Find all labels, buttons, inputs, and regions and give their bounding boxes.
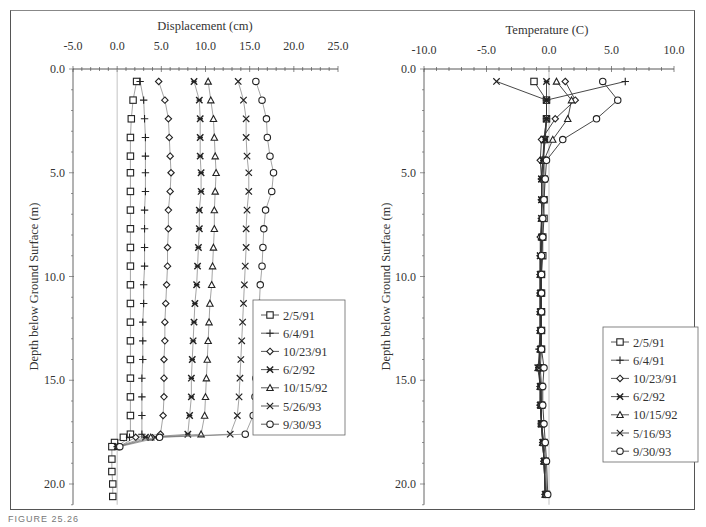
y-tick-label: 20.0 — [395, 477, 416, 491]
square-marker-icon — [127, 375, 133, 381]
x-tick-label: 25.0 — [328, 39, 349, 53]
legend-label: 5/16/93 — [633, 427, 671, 441]
diamond-marker-icon — [164, 263, 170, 269]
triangle-marker-icon — [212, 188, 218, 194]
y-tick-label: 15.0 — [44, 373, 65, 387]
square-marker-icon — [127, 356, 133, 362]
square-marker-icon — [130, 97, 136, 103]
square-marker-icon — [120, 434, 126, 440]
x-tick-label: 0.0 — [542, 43, 557, 57]
diamond-marker-icon — [163, 282, 169, 288]
series-5-26-93 — [115, 78, 252, 450]
y-tick-label: 20.0 — [44, 477, 65, 491]
x-tick-label: 10.0 — [664, 43, 685, 57]
triangle-marker-icon — [211, 207, 217, 213]
legend-label: 2/5/91 — [283, 309, 315, 323]
plus-marker-icon — [140, 281, 147, 288]
plus-marker-icon — [139, 318, 146, 325]
diamond-marker-icon — [562, 78, 568, 84]
circle-marker-icon — [593, 116, 599, 122]
x-tick-label: 5.0 — [154, 39, 169, 53]
y-tick-label: 10.0 — [395, 270, 416, 284]
circle-marker-icon — [540, 402, 546, 408]
diamond-marker-icon — [162, 319, 168, 325]
x-tick-label: 0.0 — [110, 39, 125, 53]
diamond-marker-icon — [162, 97, 168, 103]
triangle-marker-icon — [205, 78, 211, 84]
circle-marker-icon — [270, 170, 276, 176]
circle-marker-icon — [269, 188, 275, 194]
circle-marker-icon — [253, 78, 259, 84]
x-tick-label: 20.0 — [283, 39, 304, 53]
plus-marker-icon — [622, 78, 629, 85]
triangle-marker-icon — [208, 282, 214, 288]
plus-marker-icon — [138, 412, 145, 419]
asterisk-marker-icon — [191, 78, 197, 84]
y-axis-title: Depth below Ground Surface (m) — [27, 202, 41, 370]
square-marker-icon — [127, 282, 133, 288]
triangle-marker-icon — [201, 412, 207, 418]
circle-marker-icon — [242, 431, 248, 437]
legend-label: 2/5/91 — [633, 336, 665, 350]
square-marker-icon — [127, 394, 133, 400]
diamond-marker-icon — [161, 375, 167, 381]
circle-marker-icon — [262, 207, 268, 213]
legend-label: 6/2/92 — [283, 363, 315, 377]
circle-marker-icon — [545, 491, 551, 497]
legend: 2/5/916/4/9110/23/916/2/9210/15/925/16/9… — [603, 327, 698, 462]
y-tick-label: 10.0 — [44, 270, 65, 284]
plus-marker-icon — [142, 134, 149, 141]
plus-marker-icon — [140, 300, 147, 307]
plus-marker-icon — [138, 393, 145, 400]
triangle-marker-icon — [203, 375, 209, 381]
square-marker-icon — [127, 300, 133, 306]
circle-marker-icon — [538, 346, 544, 352]
square-marker-icon — [267, 312, 273, 318]
diamond-marker-icon — [161, 394, 167, 400]
cross-marker-icon — [240, 97, 246, 103]
triangle-marker-icon — [207, 300, 213, 306]
circle-marker-icon — [259, 97, 265, 103]
triangle-marker-icon — [565, 116, 571, 122]
legend-label: 6/4/91 — [283, 327, 315, 341]
circle-marker-icon — [600, 78, 606, 84]
legend: 2/5/916/4/9110/23/916/2/9210/15/925/26/9… — [253, 300, 345, 435]
square-marker-icon — [128, 116, 134, 122]
legend-label: 10/15/92 — [633, 408, 677, 422]
cross-marker-icon — [493, 78, 499, 84]
series-line — [118, 81, 249, 446]
plus-marker-icon — [139, 356, 146, 363]
circle-marker-icon — [540, 383, 546, 389]
y-tick-label: 5.0 — [50, 166, 65, 180]
diamond-marker-icon — [155, 78, 161, 84]
circle-marker-icon — [543, 458, 549, 464]
square-marker-icon — [127, 263, 133, 269]
triangle-marker-icon — [210, 116, 216, 122]
legend-label: 10/23/91 — [283, 345, 327, 359]
square-marker-icon — [127, 244, 133, 250]
triangle-marker-icon — [213, 170, 219, 176]
circle-marker-icon — [560, 136, 566, 142]
triangle-marker-icon — [204, 356, 210, 362]
y-tick-label: 0.0 — [50, 62, 65, 76]
x-tick-label: -5.0 — [477, 43, 496, 57]
circle-marker-icon — [263, 116, 269, 122]
circle-marker-icon — [117, 443, 123, 449]
square-marker-icon — [127, 134, 133, 140]
series-line — [497, 81, 547, 494]
circle-marker-icon — [264, 134, 270, 140]
circle-marker-icon — [267, 153, 273, 159]
square-marker-icon — [109, 468, 115, 474]
triangle-marker-icon — [208, 97, 214, 103]
plus-marker-icon — [141, 206, 148, 213]
y-tick-label: 0.0 — [401, 62, 416, 76]
circle-marker-icon — [538, 253, 544, 259]
square-marker-icon — [127, 338, 133, 344]
square-marker-icon — [127, 319, 133, 325]
plus-marker-icon — [141, 225, 148, 232]
diamond-marker-icon — [165, 207, 171, 213]
plus-marker-icon — [141, 262, 148, 269]
cross-marker-icon — [235, 78, 241, 84]
triangle-marker-icon — [553, 78, 559, 84]
diamond-marker-icon — [168, 170, 174, 176]
